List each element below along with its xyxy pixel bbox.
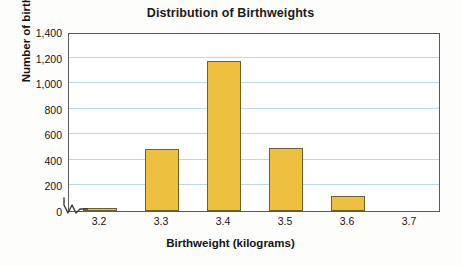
gridline [69,184,439,185]
x-axis-tick-label: 3.3 [154,215,169,227]
y-axis-tick-label: 400 [16,155,62,167]
y-axis-tick-labels: 02004006008001,0001,2001,400 [14,33,62,212]
x-axis-tick-label: 3.7 [402,215,417,227]
bar [269,148,304,211]
gridline [69,133,439,134]
x-axis-label: Birthweight (kilograms) [0,237,461,249]
y-axis-tick-label: 200 [16,180,62,192]
x-axis-tick-label: 3.5 [278,215,293,227]
gridline [69,159,439,160]
x-axis-tick-labels: 3.23.33.43.53.63.7 [68,215,440,231]
y-axis-tick-label: 600 [16,129,62,141]
birthweight-histogram: Distribution of Birthweights Number of b… [0,0,461,266]
x-axis-tick-label: 3.4 [216,215,231,227]
bar [145,149,180,211]
chart-title: Distribution of Birthweights [0,6,461,20]
y-axis-tick-label: 1,000 [16,78,62,90]
y-axis-tick-label: 1,200 [16,53,62,65]
plot-area [68,33,440,212]
y-axis-tick-label: 1,400 [16,27,62,39]
gridline [69,57,439,58]
gridline [69,108,439,109]
y-axis-tick-label: 800 [16,104,62,116]
x-axis-tick-label: 3.6 [340,215,355,227]
bar [331,196,366,211]
y-axis-tick-label: 0 [16,206,62,218]
x-axis-tick-label: 3.2 [92,215,107,227]
gridline [69,82,439,83]
bar [207,61,242,211]
